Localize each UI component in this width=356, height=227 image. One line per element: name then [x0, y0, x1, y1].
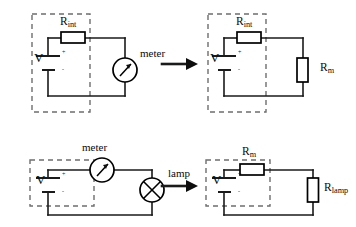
resistor-rint-top-left: [61, 32, 85, 43]
battery-sign-minus-bottom-left: -: [62, 188, 64, 194]
label-rint-top-left: Rint: [60, 16, 76, 30]
label-rint-top-right: Rint: [236, 16, 252, 30]
label-source-v-top-left: V: [34, 51, 43, 64]
arrow-head-bottom: [186, 180, 198, 192]
resistor-rlamp-bottom-right: [308, 178, 319, 202]
battery-sign-minus-bottom-right: -: [238, 188, 240, 194]
label-source-v-bottom-right: V: [212, 173, 221, 186]
label-rm-bottom-right: Rm: [242, 146, 256, 160]
label-rlamp-bottom-right: Rlamp: [324, 182, 348, 196]
resistor-rint-top-right: [237, 32, 261, 43]
circuit-canvas: [0, 0, 356, 227]
label-meter-top-left: meter: [140, 48, 165, 59]
resistor-rm-top-right: [297, 58, 308, 82]
label-source-v-bottom-left: V: [36, 173, 45, 186]
label-source-v-top-right: V: [210, 51, 219, 64]
label-lamp-bottom-left: lamp: [168, 168, 190, 179]
label-meter-bottom-left: meter: [82, 142, 107, 153]
circuit-diagram: Rint V + - meter Rint V + - Rm meter V +…: [0, 0, 356, 227]
battery-sign-minus-top-left: -: [62, 66, 64, 72]
battery-sign-minus-top-right: -: [238, 66, 240, 72]
battery-sign-plus-top-right: +: [238, 49, 241, 55]
battery-sign-plus-bottom-right: +: [238, 171, 241, 177]
label-rm-top-right: Rm: [320, 62, 334, 76]
resistor-rm-bottom-right: [240, 164, 264, 175]
arrow-head-top: [186, 58, 198, 70]
battery-sign-plus-bottom-left: +: [62, 171, 65, 177]
battery-sign-plus-top-left: +: [62, 49, 65, 55]
